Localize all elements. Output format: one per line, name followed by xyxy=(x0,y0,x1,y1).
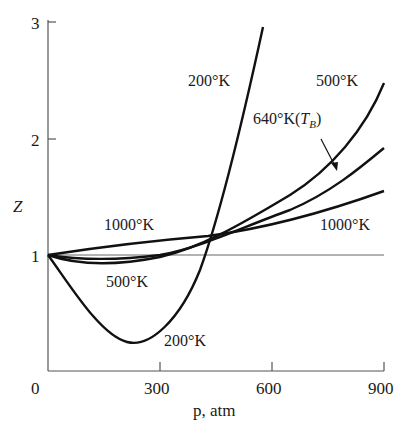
label-500k-lower: 500°K xyxy=(106,273,148,290)
x-tick-label-0: 0 xyxy=(31,379,40,398)
label-200k-upper: 200°K xyxy=(188,72,230,89)
label-1000k-left: 1000°K xyxy=(104,216,154,233)
label-1000k-right: 1000°K xyxy=(320,216,370,233)
label-500k-upper: 500°K xyxy=(316,72,358,89)
y-tick-label-3: 3 xyxy=(31,14,40,33)
x-tick-label-300: 300 xyxy=(144,379,170,398)
label-200k-lower: 200°K xyxy=(164,332,206,349)
x-tick-label-900: 900 xyxy=(368,379,394,398)
x-tick-label-600: 600 xyxy=(256,379,282,398)
x-axis-title: p, atm xyxy=(193,401,236,420)
arrow-640k xyxy=(321,139,335,166)
label-640k: 640°K(TB) xyxy=(253,110,321,130)
y-axis-title: Z xyxy=(13,197,23,216)
y-tick-label-1: 1 xyxy=(31,247,40,266)
arrow-head-icon xyxy=(331,162,338,171)
z-vs-pressure-chart: 3 2 1 0 300 600 900 Z p, atm 200°K 500°K… xyxy=(0,0,413,428)
curve-500k xyxy=(48,83,384,263)
curve-200k xyxy=(48,27,263,343)
y-tick-label-2: 2 xyxy=(31,131,40,150)
